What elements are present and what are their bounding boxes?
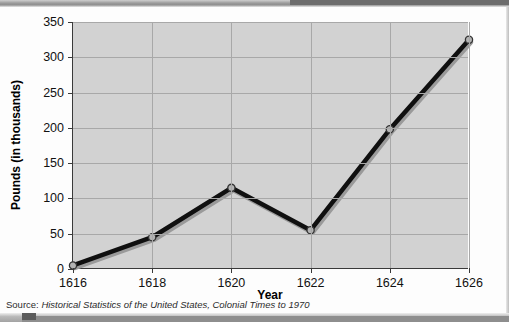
x-axis-tick-label: 1618 bbox=[138, 276, 166, 290]
gridline-vertical bbox=[152, 22, 153, 268]
gridline-vertical bbox=[311, 22, 312, 268]
gridline-horizontal bbox=[73, 22, 468, 23]
x-axis-tick bbox=[390, 268, 391, 273]
source-note: Source: Historical Statistics of the Uni… bbox=[6, 299, 310, 310]
source-note-text: Historical Statistics of the United Stat… bbox=[41, 299, 309, 310]
data-line bbox=[73, 40, 469, 266]
y-axis-tick bbox=[68, 22, 73, 23]
line-chart: Pounds (in thousands) Year 1616: 51618: … bbox=[0, 7, 509, 313]
x-axis-tick bbox=[231, 268, 232, 273]
x-axis-tick-label: 1622 bbox=[297, 276, 325, 290]
gridline-vertical bbox=[390, 22, 391, 268]
x-axis-tick bbox=[73, 268, 74, 273]
y-axis-tick bbox=[68, 128, 73, 129]
plot-inner: 1616: 51618: 451620: 1151622: 551624: 19… bbox=[73, 22, 468, 268]
gridline-vertical bbox=[231, 22, 232, 268]
data-series-line: 1616: 51618: 451620: 1151622: 551624: 19… bbox=[73, 22, 469, 269]
gridline-horizontal bbox=[73, 163, 468, 164]
x-axis-tick-label: 1624 bbox=[376, 276, 404, 290]
x-axis-tick bbox=[152, 268, 153, 273]
y-axis-tick-label: 100 bbox=[43, 191, 64, 205]
page-bottom-tab-marker bbox=[22, 313, 36, 320]
gridline-horizontal bbox=[73, 57, 468, 58]
gridline-horizontal bbox=[73, 234, 468, 235]
plot-area: 1616: 51618: 451620: 1151622: 551624: 19… bbox=[72, 22, 468, 269]
x-axis-tick bbox=[311, 268, 312, 273]
x-axis-tick-label: 1620 bbox=[217, 276, 245, 290]
x-axis-tick-label: 1626 bbox=[455, 276, 483, 290]
y-axis-tick bbox=[68, 234, 73, 235]
y-axis-tick bbox=[68, 93, 73, 94]
gridline-horizontal bbox=[73, 198, 468, 199]
y-axis-tick bbox=[68, 198, 73, 199]
y-axis-tick-label: 50 bbox=[50, 227, 64, 241]
x-axis-tick bbox=[469, 268, 470, 273]
y-axis-tick-label: 350 bbox=[43, 15, 64, 29]
x-axis-tick-label: 1616 bbox=[59, 276, 87, 290]
y-axis-tick-label: 300 bbox=[43, 50, 64, 64]
y-axis-tick bbox=[68, 57, 73, 58]
y-axis-tick-label: 250 bbox=[43, 86, 64, 100]
page-bottom-decoration-bar-dark bbox=[22, 316, 509, 322]
page-top-decoration-bar-dark bbox=[290, 0, 509, 5]
gridline-horizontal bbox=[73, 93, 468, 94]
source-note-lead: Source: bbox=[6, 299, 41, 310]
y-axis-tick-label: 200 bbox=[43, 121, 64, 135]
gridline-vertical bbox=[469, 22, 470, 268]
gridline-horizontal bbox=[73, 128, 468, 129]
chart-page: Pounds (in thousands) Year 1616: 51618: … bbox=[0, 0, 509, 322]
y-axis-tick bbox=[68, 163, 73, 164]
y-axis-tick-label: 150 bbox=[43, 156, 64, 170]
y-axis-title: Pounds (in thousands) bbox=[9, 80, 23, 210]
y-axis-tick-label: 0 bbox=[57, 262, 64, 276]
